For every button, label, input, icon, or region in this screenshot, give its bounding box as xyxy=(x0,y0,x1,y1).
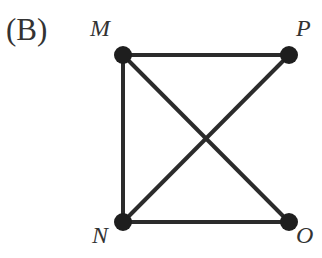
node-label-N: N xyxy=(92,222,108,249)
node-label-O: O xyxy=(296,222,313,249)
graph-diagram xyxy=(0,0,322,258)
graph-edges xyxy=(123,55,289,222)
node-label-M: M xyxy=(90,15,110,42)
node-label-P: P xyxy=(296,15,311,42)
node-N xyxy=(114,213,132,231)
node-M xyxy=(114,46,132,64)
node-P xyxy=(280,46,298,64)
